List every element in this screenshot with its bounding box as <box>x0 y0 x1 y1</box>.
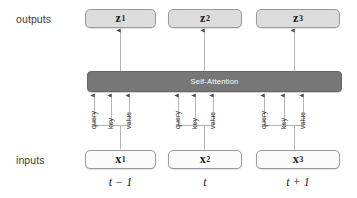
outputs-row-label: outputs <box>16 13 51 25</box>
input-symbol-1: x <box>115 152 121 167</box>
output-token-box-3: z3 <box>256 9 340 28</box>
query-label-2: query <box>174 111 181 129</box>
output-subscript-2: 2 <box>206 14 210 23</box>
input-subscript-2: 2 <box>206 155 210 164</box>
timestep-label-1: t − 1 <box>85 175 156 190</box>
self-attention-diagram: outputs inputs <box>0 0 357 198</box>
timestep-label-2: t <box>168 175 242 190</box>
timestep-label-3: t + 1 <box>256 175 340 190</box>
inputs-row-label: inputs <box>16 154 45 166</box>
key-label-3: key <box>280 118 287 129</box>
value-label-2: value <box>209 112 216 129</box>
query-label-3: query <box>260 111 267 129</box>
output-subscript-1: 1 <box>121 14 125 23</box>
value-label-1: value <box>125 112 132 129</box>
input-token-box-1: x1 <box>85 150 156 169</box>
output-token-box-1: z1 <box>85 9 156 28</box>
input-symbol-2: x <box>200 152 206 167</box>
output-symbol-1: z <box>116 11 121 26</box>
input-symbol-3: x <box>293 152 299 167</box>
output-token-box-2: z2 <box>168 9 242 28</box>
input-token-box-2: x2 <box>168 150 242 169</box>
key-label-2: key <box>191 118 198 129</box>
output-symbol-3: z <box>293 11 298 26</box>
output-subscript-3: 3 <box>299 14 303 23</box>
value-label-3: value <box>299 112 306 129</box>
self-attention-module: Self-Attention <box>87 71 342 92</box>
input-token-box-3: x3 <box>256 150 340 169</box>
output-symbol-2: z <box>200 11 205 26</box>
input-subscript-3: 3 <box>299 155 303 164</box>
input-subscript-1: 1 <box>122 155 126 164</box>
key-label-1: key <box>107 118 114 129</box>
query-label-1: query <box>90 111 97 129</box>
self-attention-label: Self-Attention <box>191 77 239 86</box>
